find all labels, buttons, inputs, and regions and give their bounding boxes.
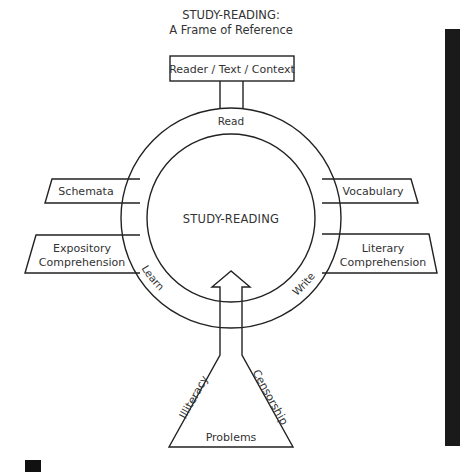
title-line-1: STUDY-READING: [182,8,280,22]
corner-block [25,460,41,472]
censorship-label: Censorship [250,367,291,427]
comprehension-label-right: Comprehension [340,256,426,269]
schemata-box: Schemata [45,179,140,203]
read-label: Read [218,115,244,127]
vocabulary-box: Vocabulary [322,179,418,203]
vocabulary-label: Vocabulary [343,185,404,198]
schemata-label: Schemata [58,185,113,198]
top-connector [220,81,243,109]
comprehension-label-left: Comprehension [39,256,125,269]
diagram-title: STUDY-READING: A Frame of Reference [169,8,293,37]
illiteracy-label: Illiteracy [177,373,212,421]
title-line-2: A Frame of Reference [169,23,293,37]
reader-text-context-box: Reader / Text / Context [169,56,295,81]
expository-label: Expository [53,242,112,255]
study-reading-diagram: STUDY-READING: A Frame of Reference Read… [0,0,475,472]
problems-label: Problems [206,431,257,444]
page-edge-bar [445,29,460,446]
reader-text-context-label: Reader / Text / Context [169,63,295,76]
center-label: STUDY-READING [183,212,279,226]
literary-label: Literary [362,242,405,255]
